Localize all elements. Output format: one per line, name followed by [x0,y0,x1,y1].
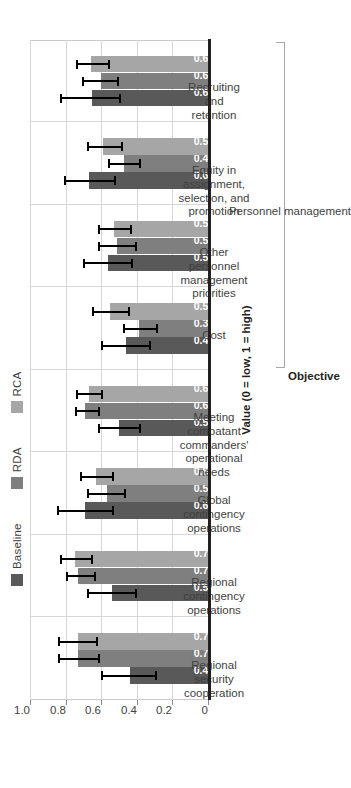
error-bar-cap-low [112,472,114,481]
category-separator [30,369,208,370]
error-bar-cap-low [91,555,93,564]
value-axis-title: Value (0 = low, 1 = high) [240,40,252,700]
error-bar-cap-low [114,176,116,185]
value-tick [30,700,31,705]
legend-swatch-baseline [11,574,23,586]
bar-value-label: 0.66 [194,52,214,64]
category-label-line: Equity in [179,164,250,178]
error-bar-cap-high [58,654,60,663]
error-bar-cap-low [124,489,126,498]
legend-item-rca: RCA [11,372,23,414]
bar-value-label: 0.59 [194,135,214,147]
bar-rca-3 [89,386,208,403]
category-label-line: Cost [202,329,226,343]
error-bar-stem [83,262,131,264]
error-bar-cap-high [83,259,85,268]
category-label-line: Global [183,494,244,508]
category-label-line: Regional [183,576,244,590]
error-bar-stem [76,393,101,395]
error-bar-cap-high [66,572,68,581]
bar-rca-1 [75,551,209,568]
error-bar-stem [64,180,114,182]
legend-swatch-rca [11,401,23,413]
error-bar-cap-low [98,654,100,663]
error-bar-cap-low [156,324,158,333]
category-separator [30,617,208,618]
error-bar-stem [101,675,154,677]
error-bar-cap-low [98,407,100,416]
category-label-line: commanders' [180,439,249,453]
error-bar-stem [58,658,97,660]
category-label-line: operations [183,521,244,535]
bar-value-label: 0.67 [194,382,214,394]
error-bar-cap-high [108,159,110,168]
category-label-line: management [180,274,247,288]
category-label-line: selection, and [179,191,250,205]
error-bar-cap-low [131,259,133,268]
legend-label: RDA [11,447,23,472]
error-bar-stem [98,245,135,247]
error-bar-stem [58,641,95,643]
error-bar-stem [60,558,90,560]
category-label-line: cooperation [184,686,244,700]
error-bar-stem [66,575,94,577]
error-bar-cap-low [128,307,130,316]
value-axis-zero-line [208,39,211,700]
bar-value-label: 0.55 [194,300,214,312]
error-bar-cap-low [139,159,141,168]
category-label-line: assignment, [179,178,250,192]
legend-item-baseline: Baseline [11,523,23,586]
bar-value-label: 0.75 [194,547,214,559]
category-axis-title: Objective [288,370,340,382]
category-label-line: Recruiting [188,81,240,95]
category-label-line: and [188,95,240,109]
category-label-line: Meeting [180,411,249,425]
error-bar-cap-high [75,407,77,416]
error-bar-stem [108,163,138,165]
error-bar-stem [60,97,119,99]
category-label-line: contingency [183,508,244,522]
category-label-line: Other [180,246,247,260]
error-bar-stem [82,80,118,82]
error-bar-stem [76,63,108,65]
category-label-line: contingency [183,590,244,604]
error-bar-cap-high [76,390,78,399]
value-gridline [66,40,67,700]
category-label-line: combatant [180,425,249,439]
error-bar-cap-low [135,242,137,251]
error-bar-cap-low [112,506,114,515]
error-bar-stem [123,328,157,330]
value-tick-label: 1.0 [14,704,30,716]
legend-label: RCA [11,372,23,397]
category-label-line: retention [188,109,240,123]
error-bar-cap-low [121,142,123,151]
value-tick-label: 0.6 [85,704,101,716]
legend-item-rda: RDA [11,447,23,489]
error-bar-cap-low [139,424,141,433]
error-bar-stem [87,146,121,148]
value-tick-label: 0.8 [50,704,66,716]
category-label-line: needs [180,466,249,480]
value-tick [101,700,102,705]
category-label-line: operational [180,453,249,467]
error-bar-cap-high [87,489,89,498]
category-label-0: Regionalsecuritycooperation [184,659,244,700]
category-label-2: Globalcontingencyoperations [183,494,244,535]
error-bar-stem [75,410,98,412]
error-bar-cap-high [98,424,100,433]
category-label-line: Regional [184,659,244,673]
personnel-management-bracket-label: Personnel management [229,205,351,217]
error-bar-stem [98,427,139,429]
category-label-1: Regionalcontingencyoperations [183,576,244,617]
error-bar-stem [92,311,128,313]
error-bar-cap-high [82,77,84,86]
error-bar-cap-low [149,341,151,350]
error-bar-cap-low [117,77,119,86]
value-tick [172,700,173,705]
error-bar-cap-low [96,637,98,646]
chart-legend: BaselineRDARCA [6,372,28,587]
error-bar-cap-high [64,176,66,185]
category-label-line: personnel [180,260,247,274]
